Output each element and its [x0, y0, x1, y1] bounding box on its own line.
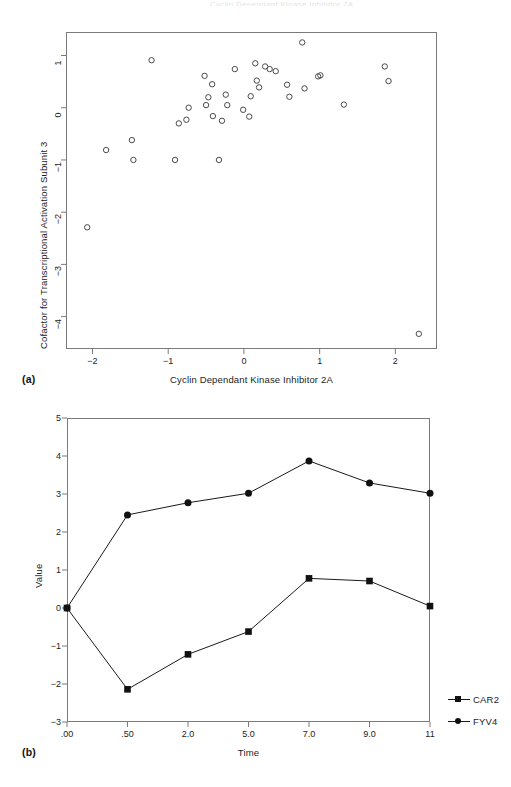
panel-b-x-axis-title: Time [238, 747, 259, 758]
panel-b-x-tick-label: 11 [410, 729, 450, 739]
figure-root: Cyclin Dependant Kinase Inhibitor 2A Cof… [0, 0, 511, 787]
legend-key-square-icon [448, 694, 470, 704]
panel-b-y-tick-label: −1 [41, 640, 61, 652]
panel-b-y-tick-label: 3 [41, 488, 61, 500]
legend-key-circle-icon [448, 716, 470, 726]
legend-item-fyv4: FYV4 [448, 710, 499, 732]
panel-b-x-tick-label: 5.0 [229, 729, 269, 739]
panel-b-x-tick-label: 9.0 [350, 729, 390, 739]
legend-label-car2: CAR2 [473, 694, 499, 705]
panel-b-data-layer [0, 0, 511, 787]
panel-b-y-tick-label: 1 [41, 564, 61, 576]
panel-b-y-tick-label: 0 [41, 602, 61, 614]
panel-b-legend: CAR2 FYV4 [448, 688, 499, 732]
panel-b-y-tick-label: −3 [41, 716, 61, 728]
panel-b-y-tick-label: −2 [41, 678, 61, 690]
legend-label-fyv4: FYV4 [473, 716, 498, 727]
panel-b-x-tick-label: .50 [108, 729, 148, 739]
panel-b-x-tick-label: .00 [47, 729, 87, 739]
panel-b-label: (b) [22, 746, 36, 758]
panel-b-y-tick-label: 4 [41, 450, 61, 462]
panel-b-y-tick-label: 5 [41, 412, 61, 424]
panel-b-y-tick-label: 2 [41, 526, 61, 538]
legend-item-car2: CAR2 [448, 688, 499, 710]
panel-b-x-tick-label: 2.0 [168, 729, 208, 739]
panel-b-x-tick-label: 7.0 [289, 729, 329, 739]
